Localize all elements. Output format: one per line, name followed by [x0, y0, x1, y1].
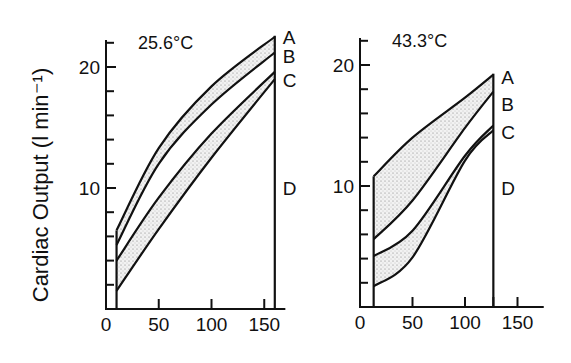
curve-label-d: D: [501, 178, 515, 199]
y-tick-label: 20: [79, 57, 100, 78]
x-tick-label: 50: [402, 312, 423, 333]
x-tick-label: 150: [502, 312, 534, 333]
x-tick-label: 100: [449, 312, 481, 333]
panel-title: 25.6°C: [138, 33, 193, 53]
panel-title: 43.3°C: [392, 31, 447, 51]
y-axis-label: Cardiac Output (l min⁻¹): [28, 68, 53, 303]
x-tick-label: 0: [355, 312, 366, 333]
curve-label-c: C: [501, 122, 515, 143]
curve-label-b: B: [283, 46, 296, 67]
panel-1: 102005010015025.6°CABCD: [79, 27, 297, 335]
curve-label-a: A: [501, 67, 514, 88]
curve-label-a: A: [283, 27, 296, 48]
curve-label-c: C: [283, 70, 297, 91]
shaded-band-a-b: [117, 37, 275, 245]
x-tick-label: 100: [196, 314, 228, 335]
y-tick-label: 20: [333, 55, 354, 76]
curve-label-b: B: [501, 94, 514, 115]
x-tick-label: 0: [101, 314, 112, 335]
x-tick-label: 50: [148, 314, 169, 335]
panel-2: 102005010015043.3°CABCD: [333, 31, 544, 333]
y-tick-label: 10: [333, 176, 354, 197]
cardiac-output-figure: Cardiac Output (l min⁻¹) 102005010015025…: [0, 0, 571, 363]
series-line-b: [117, 52, 275, 244]
y-tick-label: 10: [79, 178, 100, 199]
x-tick-label: 150: [248, 314, 280, 335]
curve-label-d: D: [283, 178, 297, 199]
